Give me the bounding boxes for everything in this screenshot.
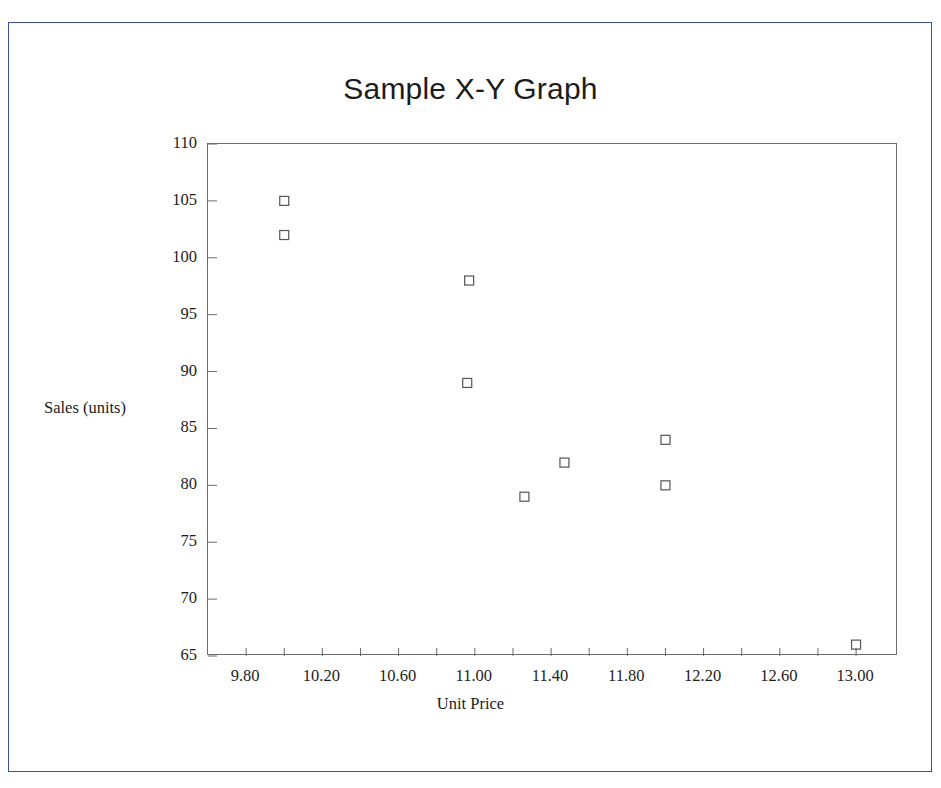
y-tick-label: 85 [149, 417, 197, 437]
x-tick-label: 11.40 [532, 666, 569, 686]
y-tick-label: 95 [149, 304, 197, 324]
data-point-marker [280, 196, 289, 205]
y-tick-label: 80 [149, 474, 197, 494]
y-tick-label: 105 [149, 190, 197, 210]
y-tick-label: 100 [149, 247, 197, 267]
y-axis-title: Sales (units) [44, 398, 126, 418]
x-tick-label: 12.60 [760, 666, 797, 686]
y-tick-label: 65 [149, 645, 197, 665]
data-point-marker [661, 435, 670, 444]
x-tick-label: 13.00 [837, 666, 874, 686]
data-point-marker [280, 231, 289, 240]
x-tick-label: 10.60 [379, 666, 416, 686]
y-tick-label: 70 [149, 588, 197, 608]
data-point-markers [280, 196, 861, 649]
scatter-chart-figure: Sample X-Y Graph Sales (units) Unit Pric… [0, 0, 941, 788]
y-tick-label: 75 [149, 531, 197, 551]
data-point-marker [560, 458, 569, 467]
data-point-marker [852, 640, 861, 649]
y-tick-label: 90 [149, 361, 197, 381]
plot-area [207, 143, 897, 655]
chart-title: Sample X-Y Graph [0, 72, 941, 106]
y-axis-tick-marks [208, 144, 217, 656]
data-point-marker [520, 492, 529, 501]
y-tick-label: 110 [149, 133, 197, 153]
x-tick-label: 11.00 [456, 666, 493, 686]
x-tick-label: 9.80 [231, 666, 260, 686]
data-point-marker [465, 276, 474, 285]
x-tick-label: 10.20 [303, 666, 340, 686]
data-point-marker [463, 378, 472, 387]
x-axis-title: Unit Price [0, 694, 941, 714]
x-tick-label: 12.20 [684, 666, 721, 686]
x-tick-label: 11.80 [608, 666, 645, 686]
data-point-marker [661, 481, 670, 490]
plot-svg [208, 144, 898, 656]
page-canvas: Sample X-Y Graph Sales (units) Unit Pric… [0, 0, 941, 788]
x-axis-tick-marks [246, 648, 856, 656]
